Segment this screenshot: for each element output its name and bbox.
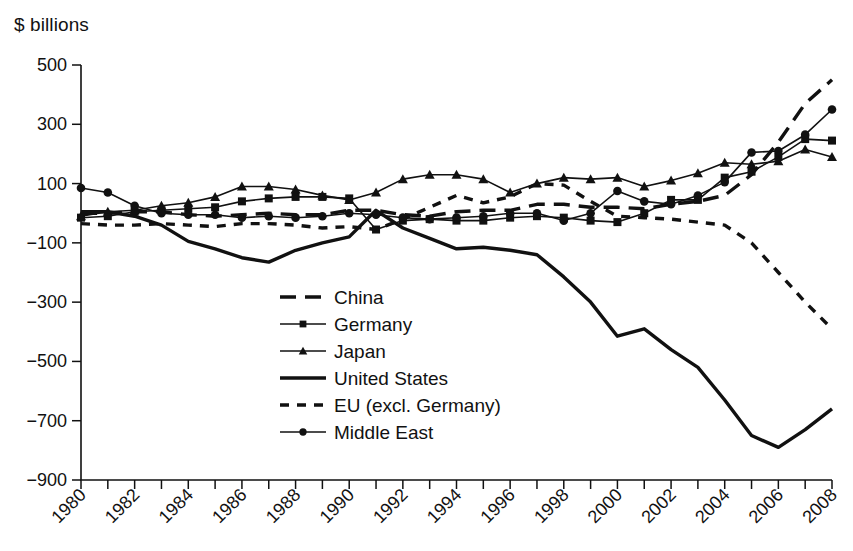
data-point-marker-circle: [479, 212, 488, 221]
data-point-marker-circle: [506, 209, 515, 218]
data-point-marker-circle: [425, 215, 434, 224]
legend-label: China: [334, 287, 384, 308]
x-tick-label: 1992: [369, 485, 411, 527]
series-line: [81, 80, 832, 216]
x-tick-label: 2008: [798, 485, 840, 527]
data-point-marker-square: [828, 137, 836, 145]
legend-item-middle-east: Middle East: [280, 422, 434, 443]
legend-label: Japan: [334, 341, 386, 362]
data-point-marker-circle: [613, 187, 622, 196]
y-tick-label: −900: [26, 470, 67, 490]
x-tick-label: 1996: [477, 485, 519, 527]
data-point-marker-square: [300, 321, 307, 328]
y-tick-label: 300: [37, 114, 67, 134]
x-axis-tick-group: 1980198219841986198819901992199419961998…: [47, 480, 840, 527]
data-point-marker-circle: [774, 147, 783, 156]
data-point-marker-square: [265, 194, 273, 202]
legend-label: Middle East: [334, 422, 434, 443]
data-point-marker-circle: [299, 428, 306, 435]
y-axis-tick-group: 500300100−100−300−500−700−900: [26, 55, 81, 490]
x-tick-label: 1994: [423, 485, 465, 527]
x-tick-label: 1990: [316, 485, 358, 527]
data-point-marker-circle: [828, 105, 837, 114]
data-point-marker-circle: [372, 210, 381, 219]
data-point-marker-square: [292, 193, 300, 201]
chart-container: $ billions 500300100−100−300−500−700−900…: [0, 0, 853, 551]
legend-item-china: China: [280, 287, 384, 308]
y-tick-label: −500: [26, 351, 67, 371]
y-tick-label: −300: [26, 292, 67, 312]
legend-label: United States: [334, 368, 448, 389]
legend-item-japan: Japan: [280, 341, 386, 362]
data-point-marker-circle: [399, 213, 408, 222]
data-point-marker-triangle: [800, 144, 810, 153]
data-point-marker-circle: [130, 202, 139, 211]
data-point-marker-circle: [157, 209, 166, 218]
data-point-marker-circle: [452, 213, 461, 222]
data-point-marker-circle: [559, 216, 568, 225]
data-point-marker-triangle: [210, 192, 220, 201]
legend-item-germany: Germany: [280, 314, 413, 335]
data-point-marker-circle: [667, 200, 676, 209]
data-point-marker-circle: [694, 191, 703, 200]
data-point-marker-circle: [318, 212, 327, 221]
x-tick-label: 2002: [637, 485, 679, 527]
x-tick-label: 1982: [101, 485, 143, 527]
data-point-marker-circle: [238, 213, 247, 222]
x-tick-label: 1986: [208, 485, 250, 527]
data-point-marker-circle: [211, 210, 220, 219]
y-tick-label: 500: [37, 55, 67, 75]
data-point-marker-square: [613, 218, 621, 226]
y-tick-label: 100: [37, 174, 67, 194]
data-point-marker-circle: [77, 184, 86, 193]
data-point-marker-circle: [586, 209, 595, 218]
x-tick-label: 1980: [47, 485, 89, 527]
axis-frame: [81, 65, 832, 480]
series-eu-excl-germany: [81, 184, 832, 329]
data-point-marker-circle: [184, 210, 193, 219]
chart-legend: ChinaGermanyJapanUnited StatesEU (excl. …: [280, 287, 501, 443]
x-tick-label: 2000: [584, 485, 626, 527]
legend-item-united-states: United States: [280, 368, 448, 389]
line-chart: 500300100−100−300−500−700−900 1980198219…: [0, 0, 853, 551]
data-point-marker-square: [587, 217, 595, 225]
x-tick-label: 1984: [155, 485, 197, 527]
data-point-marker-circle: [747, 148, 756, 157]
data-point-marker-circle: [533, 209, 542, 218]
x-tick-label: 1988: [262, 485, 304, 527]
y-tick-label: −100: [26, 233, 67, 253]
data-point-marker-square: [211, 203, 219, 211]
legend-label: EU (excl. Germany): [334, 395, 501, 416]
data-point-marker-circle: [345, 209, 354, 218]
data-point-marker-circle: [291, 213, 300, 222]
x-tick-label: 1998: [530, 485, 572, 527]
series-china: [81, 80, 832, 216]
x-tick-label: 2004: [691, 485, 733, 527]
series-line: [81, 184, 832, 329]
data-point-marker-square: [238, 197, 246, 205]
data-point-marker-circle: [801, 130, 810, 139]
legend-item-eu-excl-germany: EU (excl. Germany): [280, 395, 501, 416]
data-point-marker-circle: [720, 178, 729, 187]
data-point-marker-circle: [104, 188, 113, 197]
series-group: [76, 80, 837, 448]
data-point-marker-circle: [264, 212, 273, 221]
data-point-marker-square: [748, 168, 756, 176]
legend-label: Germany: [334, 314, 413, 335]
axis-lines: [81, 65, 832, 480]
x-tick-label: 2006: [745, 485, 787, 527]
y-tick-label: −700: [26, 411, 67, 431]
data-point-marker-triangle: [371, 187, 381, 196]
data-point-marker-circle: [640, 197, 649, 206]
